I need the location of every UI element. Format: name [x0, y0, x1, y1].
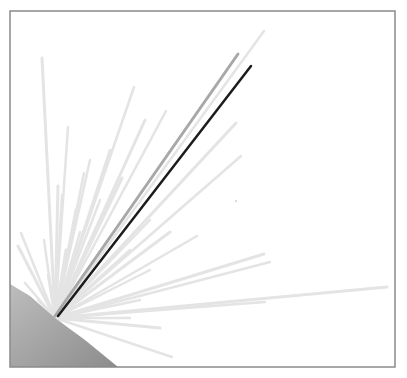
- ray-diagram: [0, 0, 407, 378]
- stray-dot: [235, 200, 237, 202]
- diagram-canvas: [0, 0, 407, 378]
